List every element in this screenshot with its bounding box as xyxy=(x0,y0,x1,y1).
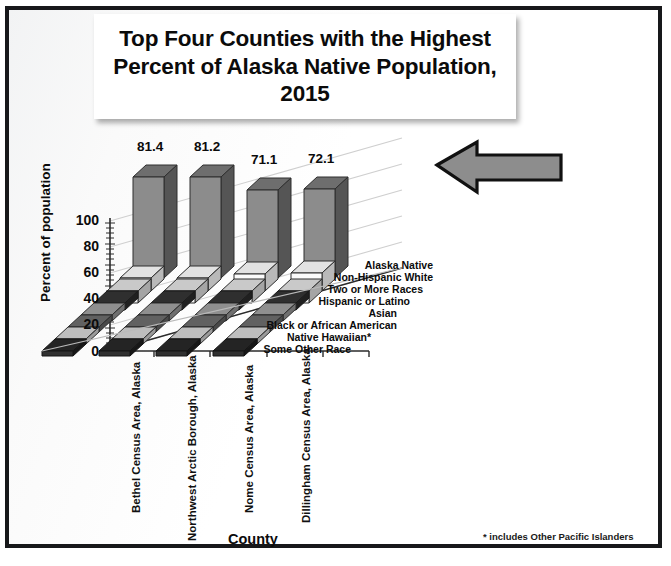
legend-item-hispanic-or-latino: Hispanic or Latino xyxy=(270,295,410,307)
x-category-northwest-arctic: Northwest Arctic Borough, Alaska xyxy=(186,355,198,541)
slide-frame: Top Four Counties with the Highest Perce… xyxy=(5,6,662,548)
left-arrow-annotation xyxy=(437,142,561,192)
y-tick-label: 40 xyxy=(55,290,99,306)
x-category-bethel: Bethel Census Area, Alaska xyxy=(130,362,142,513)
data-label-nome: 71.1 xyxy=(251,152,277,167)
bar-bethel-alaska-native xyxy=(133,165,177,278)
data-label-northwest-arctic: 81.2 xyxy=(194,139,220,154)
legend-item-native-hawaiian: Native Hawaiian* xyxy=(231,331,371,343)
chart-footnote: * includes Other Pacific Islanders xyxy=(483,531,633,542)
data-label-bethel: 81.4 xyxy=(137,139,163,154)
data-label-dillingham: 72.1 xyxy=(308,151,334,166)
legend-item-two-or-more-races: Two or More Races xyxy=(283,283,423,295)
x-category-dillingham: Dillingham Census Area, Alaska xyxy=(300,348,312,523)
x-axis-label: County xyxy=(228,531,278,547)
legend-item-some-other-race: Some Other Race xyxy=(211,343,351,355)
x-category-nome: Nome Census Area, Alaska xyxy=(243,365,255,513)
y-tick-label: 20 xyxy=(55,316,99,332)
legend-item-alaska-native: Alaska Native xyxy=(313,259,433,271)
y-tick-label: 60 xyxy=(55,264,99,280)
legend-item-non-hispanic-white: Non-Hispanic White xyxy=(293,271,433,283)
bar-nome-some-other-race xyxy=(156,339,200,356)
bar-northwest-arctic-some-other-race xyxy=(99,339,143,356)
legend-item-black-or-african-american: Black or African American xyxy=(237,319,397,331)
chart-plot-area: 100 80 60 40 20 0 Percent of population … xyxy=(9,10,666,552)
bar-northwest-arctic-alaska-native xyxy=(190,165,234,278)
y-tick-label: 0 xyxy=(55,343,99,359)
y-tick-label: 80 xyxy=(55,238,99,254)
y-tick-label: 100 xyxy=(55,212,99,228)
y-axis-label: Percent of population xyxy=(38,153,53,313)
legend-item-asian: Asian xyxy=(257,307,397,319)
